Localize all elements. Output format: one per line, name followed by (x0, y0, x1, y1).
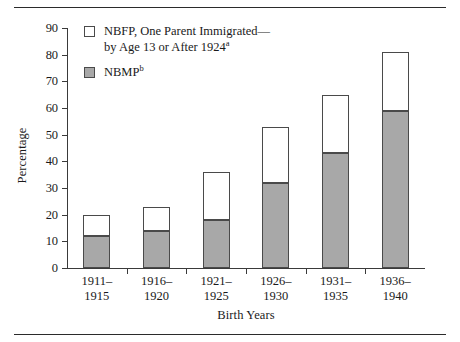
bar-group (322, 0, 349, 268)
x-tick-label-line: 1925 (186, 289, 246, 304)
x-tick-label: 1916–1920 (127, 274, 187, 303)
x-tick-label-line: 1936– (365, 274, 425, 289)
y-tick-label: 60 (28, 102, 58, 115)
y-tick-mark (62, 55, 67, 56)
figure-container: Percentage Birth Years 01020304050607080… (0, 0, 460, 342)
y-tick-mark (62, 268, 67, 269)
x-tick-label-line: 1920 (127, 289, 187, 304)
y-tick-mark (62, 81, 67, 82)
x-tick-label: 1921–1925 (186, 274, 246, 303)
y-tick-mark (62, 28, 67, 29)
y-tick-mark (62, 135, 67, 136)
legend-nbfp-note: a (226, 37, 230, 47)
y-tick-mark (62, 241, 67, 242)
bar-segment-nbfp (83, 215, 110, 236)
y-tick-label: 30 (28, 182, 58, 195)
legend-nbmp-note: b (139, 63, 143, 73)
x-tick-label-line: 1911– (67, 274, 127, 289)
y-tick-label: 70 (28, 75, 58, 88)
x-tick-label-line: 1930 (246, 289, 306, 304)
y-tick-mark (62, 215, 67, 216)
x-tick-label: 1911–1915 (67, 274, 127, 303)
legend-item-nbfp-label: NBFP, One Parent Immigrated—by Age 13 or… (104, 24, 270, 55)
legend-item-nbmp-label: NBMPb (104, 65, 270, 81)
bar-segment-nbfp (322, 95, 349, 154)
x-tick-label: 1926–1930 (246, 274, 306, 303)
bar-segment-nbfp (262, 127, 289, 183)
x-tick-label-line: 1931– (306, 274, 366, 289)
y-axis-line (67, 28, 68, 269)
x-tick-label: 1936–1940 (365, 274, 425, 303)
y-tick-mark (62, 108, 67, 109)
x-axis-title: Birth Years (67, 308, 425, 323)
legend-nbfp-line2: by Age 13 or After 1924 (104, 40, 226, 54)
y-tick-label: 50 (28, 129, 58, 142)
bar-segment-nbmp (143, 231, 170, 268)
y-tick-label: 10 (28, 235, 58, 248)
x-tick-label-line: 1935 (306, 289, 366, 304)
legend-nbfp-line1: NBFP, One Parent Immigrated— (104, 24, 270, 38)
open-square-icon (84, 26, 95, 37)
x-tick-label-line: 1921– (186, 274, 246, 289)
legend-nbmp-line1: NBMP (104, 65, 139, 79)
bar-segment-nbmp (83, 236, 110, 268)
x-tick-label-line: 1915 (67, 289, 127, 304)
plot-area: Percentage Birth Years 01020304050607080… (0, 0, 460, 342)
y-tick-mark (62, 188, 67, 189)
bar-segment-nbmp (203, 220, 230, 268)
x-tick-label-line: 1926– (246, 274, 306, 289)
y-tick-label: 80 (28, 49, 58, 62)
bar-segment-nbmp (322, 153, 349, 268)
x-tick-label: 1931–1935 (306, 274, 366, 303)
y-tick-label: 40 (28, 155, 58, 168)
legend-item-nbfp: NBFP, One Parent Immigrated—by Age 13 or… (84, 24, 270, 55)
filled-square-icon (84, 67, 95, 78)
y-tick-label: 90 (28, 22, 58, 35)
legend-item-nbmp: NBMPb (84, 65, 270, 81)
bar-segment-nbmp (382, 111, 409, 268)
x-tick-label-line: 1916– (127, 274, 187, 289)
y-tick-mark (62, 161, 67, 162)
bar-segment-nbfp (203, 172, 230, 220)
x-tick-label-line: 1940 (365, 289, 425, 304)
legend: NBFP, One Parent Immigrated—by Age 13 or… (84, 24, 270, 91)
y-tick-label: 20 (28, 209, 58, 222)
y-tick-label: 0 (28, 262, 58, 275)
bar-segment-nbfp (143, 207, 170, 231)
bar-group (382, 0, 409, 268)
bar-segment-nbfp (382, 52, 409, 111)
bar-segment-nbmp (262, 183, 289, 268)
